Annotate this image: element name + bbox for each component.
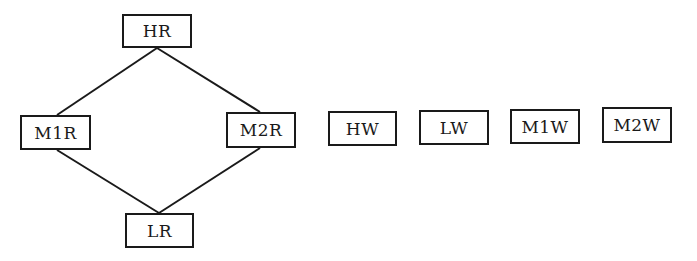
edge-m2r-lr [159, 148, 260, 213]
node-label: LR [147, 221, 172, 241]
node-label: LW [440, 118, 468, 138]
node-label: M2R [240, 120, 283, 140]
node-label: M1W [521, 117, 568, 137]
node-m2w: M2W [602, 107, 672, 143]
node-hr: HR [122, 14, 192, 48]
edge-hr-m2r [157, 48, 260, 112]
node-lw: LW [419, 110, 489, 145]
node-label: M1R [34, 123, 77, 143]
node-m2r: M2R [226, 112, 296, 148]
node-m1w: M1W [510, 109, 580, 144]
node-label: M2W [613, 115, 660, 135]
node-hw: HW [328, 111, 397, 146]
node-m1r: M1R [20, 115, 91, 150]
lattice-diagram: HR M1R M2R LR HW LW M1W M2W [0, 0, 697, 261]
node-label: HW [346, 119, 379, 139]
node-label: HR [143, 21, 172, 41]
node-lr: LR [125, 213, 194, 248]
edge-hr-m1r [57, 48, 157, 115]
edge-m1r-lr [57, 150, 159, 213]
